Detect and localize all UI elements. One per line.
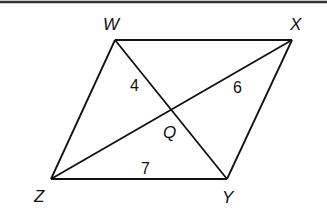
side-xy: [227, 40, 292, 179]
segment-length-zy: 7: [141, 160, 150, 177]
geometry-diagram: W X Y Z Q 4 6 7: [0, 0, 327, 215]
intersection-label-q: Q: [163, 123, 176, 142]
segment-length-xq: 6: [233, 79, 242, 96]
vertex-label-x: X: [289, 15, 302, 34]
vertex-label-z: Z: [33, 187, 45, 206]
side-zw: [51, 40, 115, 179]
segment-length-wq: 4: [130, 77, 139, 94]
vertex-label-y: Y: [222, 188, 235, 207]
vertex-label-w: W: [103, 15, 121, 34]
diagonal-xz: [51, 40, 292, 179]
